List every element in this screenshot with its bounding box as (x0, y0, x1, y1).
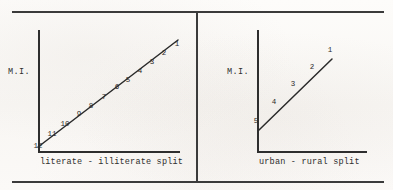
series-line-right (197, 12, 393, 182)
trend-line-right (259, 59, 332, 130)
point-label: 4 (138, 68, 143, 76)
point-label: 1 (175, 41, 180, 49)
point-label: 2 (310, 64, 315, 72)
point-label: 3 (150, 59, 155, 67)
point-label: 5 (254, 118, 259, 126)
point-label: 2 (162, 50, 167, 58)
point-label: 9 (77, 111, 82, 119)
point-label: 5 (126, 77, 131, 85)
trend-line-left (38, 40, 178, 147)
point-label: 6 (115, 84, 120, 92)
point-label: 11 (47, 131, 56, 139)
point-label: 7 (102, 94, 107, 102)
point-label: 10 (60, 121, 69, 129)
figure-canvas: M.I. literate - illiterate split 12 11 1… (0, 0, 393, 190)
chart-panel-left: M.I. literate - illiterate split 12 11 1… (0, 12, 196, 182)
chart-panel-right: M.I. urban - rural split 5 4 3 2 1 (197, 12, 393, 182)
series-line-left (0, 12, 196, 182)
point-label: 8 (89, 103, 94, 111)
point-label: 12 (33, 143, 42, 151)
point-label: 4 (272, 99, 277, 107)
point-label: 3 (291, 81, 296, 89)
point-label: 1 (328, 47, 333, 55)
